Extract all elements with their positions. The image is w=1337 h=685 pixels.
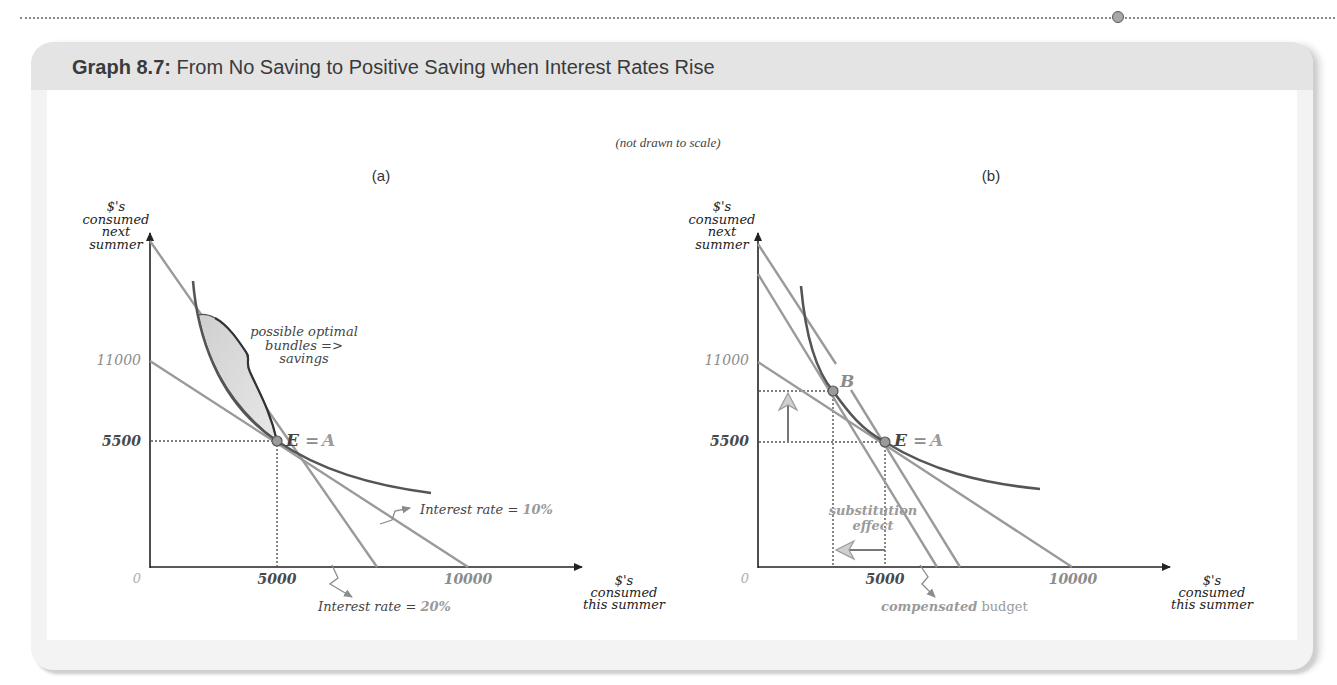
panel-b-budget-20-lower <box>851 390 960 567</box>
svg-text:A: A <box>320 430 335 450</box>
panel-a-point-e <box>272 436 282 446</box>
svg-text:savings: savings <box>279 351 329 366</box>
panel-b-point-b <box>828 386 838 396</box>
panel-b-compensated-pointer <box>920 565 935 597</box>
svg-text:E: E <box>285 430 300 450</box>
panel-b-x-tick-5000: 5000 <box>866 571 905 587</box>
panel-b-y-tick-11000: 11000 <box>704 352 749 368</box>
panel-a-rate20-label: Interest rate = 20% <box>317 599 451 614</box>
panel-b-budget-10 <box>758 362 1072 567</box>
svg-text:summer: summer <box>695 237 749 252</box>
not-to-scale-note: (not drawn to scale) <box>615 135 720 150</box>
panel-b-x-axis-label: $'s consumed this summer <box>1171 573 1254 612</box>
panel-b-substitution-label: substitution effect <box>829 503 918 533</box>
chart-canvas: (not drawn to scale) (a) $'s consumed ne… <box>0 0 1337 685</box>
panel-a-y-axis-label: $'s consumed next summer <box>83 199 150 252</box>
panel-b-point-e-label: E = A <box>893 430 943 450</box>
panel-b-compensated-budget <box>758 274 937 567</box>
svg-text:possible optimal: possible optimal <box>250 324 358 339</box>
panel-b-budget-20-upper <box>758 244 836 364</box>
svg-text:substitution: substitution <box>829 503 918 518</box>
panel-a-rate20-pointer <box>330 565 352 597</box>
panel-b-y-axis-label: $'s consumed next summer <box>689 199 756 252</box>
panel-a-x-tick-10000: 10000 <box>444 571 493 587</box>
panel-b-compensated-label: compensated budget <box>881 599 1028 614</box>
panel-a-rate10-label: Interest rate = 10% <box>419 502 553 517</box>
svg-text:=: = <box>913 430 927 450</box>
panel-a-x-tick-5000: 5000 <box>258 571 297 587</box>
svg-text:this summer: this summer <box>1171 597 1254 612</box>
panel-b-point-e <box>880 437 890 447</box>
svg-text:effect: effect <box>852 518 893 533</box>
panel-a-origin: 0 <box>133 571 141 586</box>
svg-text:A: A <box>928 430 943 450</box>
svg-text:summer: summer <box>89 237 143 252</box>
panel-a-y-tick-5500: 5500 <box>102 433 141 449</box>
panel-b-y-tick-5500: 5500 <box>710 433 749 449</box>
panel-b-label: (b) <box>982 167 1000 184</box>
panel-a-optimal-annotation: possible optimal bundles => savings <box>250 324 358 366</box>
panel-b-x-tick-10000: 10000 <box>1049 571 1098 587</box>
panel-b-origin: 0 <box>741 571 749 586</box>
panel-b: (b) $'s consumed next summer B <box>689 167 1254 614</box>
svg-text:=: = <box>305 430 319 450</box>
svg-text:E: E <box>893 430 908 450</box>
panel-a: (a) $'s consumed next summer E = A <box>83 167 666 614</box>
panel-a-budget-10 <box>150 361 468 567</box>
panel-a-y-tick-11000: 11000 <box>96 352 141 368</box>
panel-a-x-axis-label: $'s consumed this summer <box>583 573 666 612</box>
panel-a-point-label: E = A <box>285 430 335 450</box>
panel-a-rate10-pointer <box>380 508 410 524</box>
panel-b-point-b-label: B <box>839 371 854 391</box>
panel-a-label: (a) <box>372 167 390 184</box>
svg-text:this summer: this summer <box>583 597 666 612</box>
